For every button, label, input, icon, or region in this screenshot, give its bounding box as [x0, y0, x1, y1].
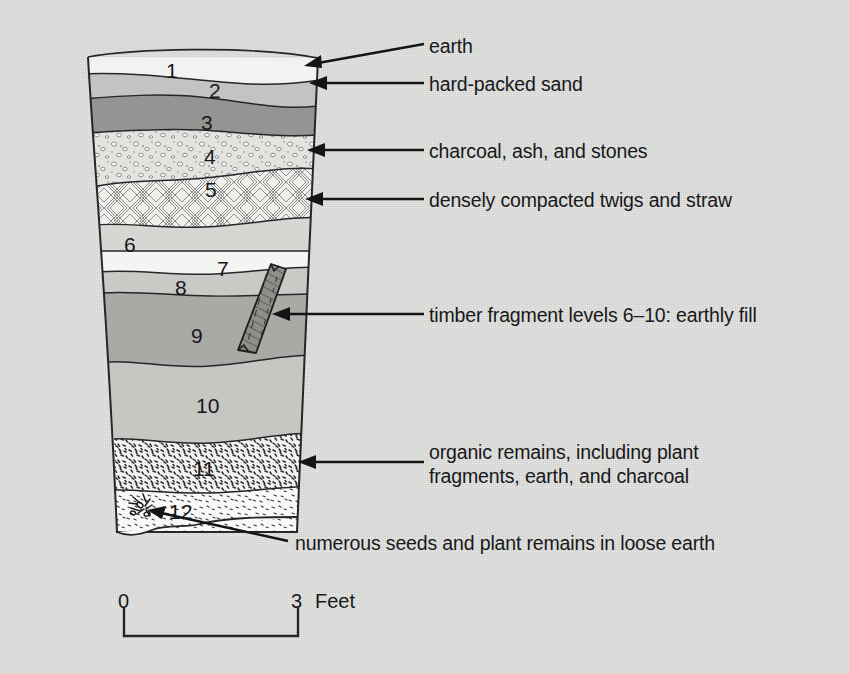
- layer-number-10: 10: [196, 393, 219, 419]
- scale-unit-label: Feet: [315, 589, 355, 613]
- leader-earth: [304, 44, 424, 68]
- pit-top-edge: [88, 50, 318, 58]
- layer-number-1: 1: [166, 58, 178, 84]
- annotation-seeds-plant-remains: numerous seeds and plant remains in loos…: [295, 532, 715, 556]
- leader-organic: [298, 455, 424, 469]
- layer-number-6: 6: [124, 232, 136, 258]
- layer-number-2: 2: [209, 78, 221, 104]
- layer-number-4: 4: [204, 144, 216, 170]
- stratigraphy-diagram: [0, 0, 849, 674]
- leader-twigs: [305, 192, 424, 206]
- leader-charcoal: [307, 143, 424, 157]
- annotation-organic-remains-line2: fragments, earth, and charcoal: [429, 465, 689, 489]
- layer-number-7: 7: [217, 256, 229, 282]
- layer-number-11: 11: [193, 456, 215, 482]
- annotation-organic-remains-line1: organic remains, including plant: [429, 441, 698, 465]
- scale-min-label: 0: [118, 589, 129, 613]
- layer-number-3: 3: [201, 110, 213, 136]
- layer-number-8: 8: [175, 275, 187, 301]
- layer-number-9: 9: [191, 323, 203, 349]
- annotation-earth: earth: [429, 35, 473, 59]
- layer-number-12: 12: [169, 499, 192, 525]
- annotation-timber-fragment: timber fragment levels 6–10: earthly fil…: [429, 304, 757, 328]
- scale-bar: [124, 608, 298, 636]
- leader-hard-packed-sand: [309, 76, 424, 90]
- annotation-twigs-straw: densely compacted twigs and straw: [429, 189, 732, 213]
- layer-number-5: 5: [205, 177, 217, 203]
- layer-10: [109, 355, 330, 443]
- annotation-hard-packed-sand: hard-packed sand: [429, 73, 583, 97]
- scale-max-label: 3: [291, 589, 302, 613]
- annotation-charcoal-ash-stones: charcoal, ash, and stones: [429, 140, 647, 164]
- stratigraphy-figure: 1 2 3 4 5 6 7 8 9 10 11 12 earth hard-pa…: [0, 0, 849, 674]
